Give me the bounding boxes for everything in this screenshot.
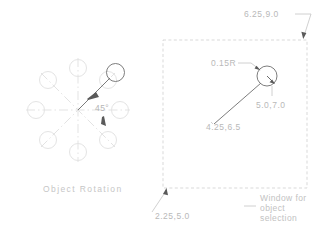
array-circle-225deg xyxy=(40,132,57,149)
radius-arrowhead xyxy=(270,80,276,85)
technical-drawing-canvas: 45° Object Rotation 0.15R xyxy=(0,0,329,239)
top-right-leader-arrowhead xyxy=(301,32,306,39)
object-line xyxy=(214,83,261,124)
coord-label-circle-center: 5.0,7.0 xyxy=(256,100,286,110)
drawing-svg: 45° Object Rotation 0.15R xyxy=(0,0,329,239)
note-line-3: selection xyxy=(260,213,297,223)
rotated-object-circle xyxy=(107,64,125,82)
radius-arrow-group xyxy=(267,76,275,84)
right-figure-selection-window: 0.15R 6.25,9.0 5.0,7.0 4.25,6.5 2.25,5.0… xyxy=(152,9,311,223)
coord-label-line-start: 4.25,6.5 xyxy=(206,122,241,132)
note-line-2: object xyxy=(260,203,285,213)
left-figure-caption: Object Rotation xyxy=(43,184,123,194)
radius-label: 0.15R xyxy=(211,58,236,68)
angle-label: 45° xyxy=(95,103,109,113)
angle-arrowhead-lower xyxy=(101,116,106,126)
note-line-1: Window for xyxy=(260,193,307,203)
coord-label-bottom-left: 2.25,5.0 xyxy=(155,211,190,221)
left-figure-object-rotation: 45° Object Rotation xyxy=(26,58,130,194)
array-circle-135deg xyxy=(40,72,57,89)
angle-arrowhead-upper xyxy=(87,92,99,100)
coord-label-top-right: 6.25,9.0 xyxy=(244,9,279,19)
